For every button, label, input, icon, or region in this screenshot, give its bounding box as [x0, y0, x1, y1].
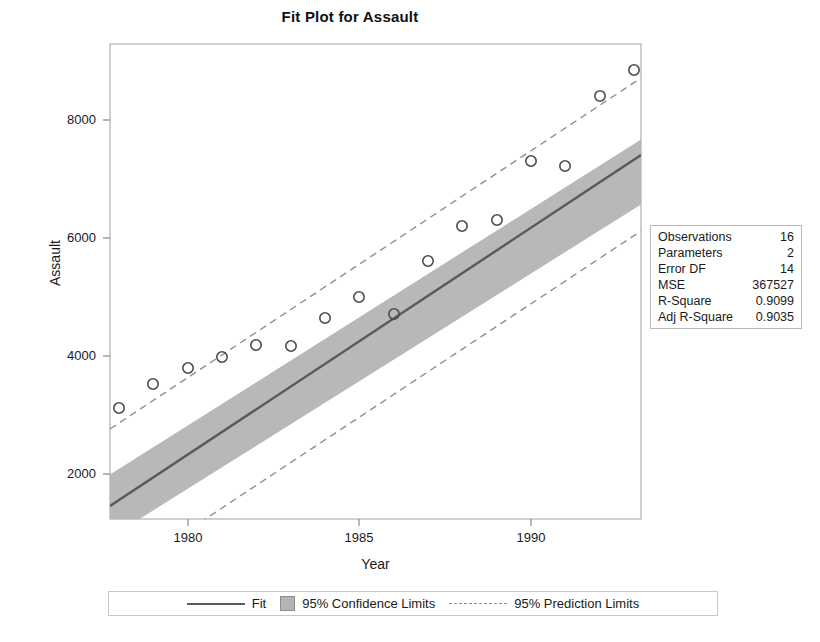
y-axis-ticks [103, 120, 110, 474]
legend-item-fit: Fit [187, 596, 266, 611]
statistics-box: Observations 16 Parameters 2 Error DF 14… [650, 225, 802, 329]
x-tick-label: 1980 [158, 530, 218, 545]
prediction-limits-icon [449, 603, 507, 604]
stats-value: 0.9035 [756, 309, 794, 325]
stats-value: 367527 [752, 277, 794, 293]
stats-value: 2 [787, 245, 794, 261]
stats-label: Adj R-Square [658, 309, 733, 325]
x-tick-label: 1985 [329, 530, 389, 545]
stats-label: Error DF [658, 261, 706, 277]
y-tick-label: 4000 [36, 348, 96, 363]
legend-item-prediction: 95% Prediction Limits [449, 596, 639, 611]
stats-value: 16 [780, 229, 794, 245]
y-axis-title: Assault [47, 203, 63, 323]
stats-row: Error DF 14 [651, 261, 801, 277]
stats-row: Observations 16 [651, 229, 801, 245]
x-axis-title: Year [110, 556, 641, 572]
x-axis-ticks [188, 519, 531, 526]
chart-legend: Fit 95% Confidence Limits 95% Prediction… [108, 591, 718, 616]
stats-value: 0.9099 [756, 293, 794, 309]
confidence-band-icon [280, 596, 295, 611]
stats-label: Observations [658, 229, 732, 245]
x-tick-label: 1990 [501, 530, 561, 545]
stats-row: MSE 367527 [651, 277, 801, 293]
legend-label: 95% Confidence Limits [302, 596, 435, 611]
stats-label: R-Square [658, 293, 712, 309]
legend-item-confidence: 95% Confidence Limits [280, 596, 435, 611]
y-tick-label: 8000 [36, 112, 96, 127]
y-tick-label: 6000 [36, 230, 96, 245]
stats-value: 14 [780, 261, 794, 277]
fit-plot-chart: Fit Plot for Assault [0, 0, 820, 642]
fit-line-icon [187, 603, 245, 605]
stats-row: Parameters 2 [651, 245, 801, 261]
stats-label: MSE [658, 277, 685, 293]
stats-label: Parameters [658, 245, 723, 261]
legend-label: 95% Prediction Limits [514, 596, 639, 611]
y-tick-label: 2000 [36, 466, 96, 481]
stats-row: R-Square 0.9099 [651, 293, 801, 309]
legend-label: Fit [252, 596, 266, 611]
stats-row: Adj R-Square 0.9035 [651, 309, 801, 325]
